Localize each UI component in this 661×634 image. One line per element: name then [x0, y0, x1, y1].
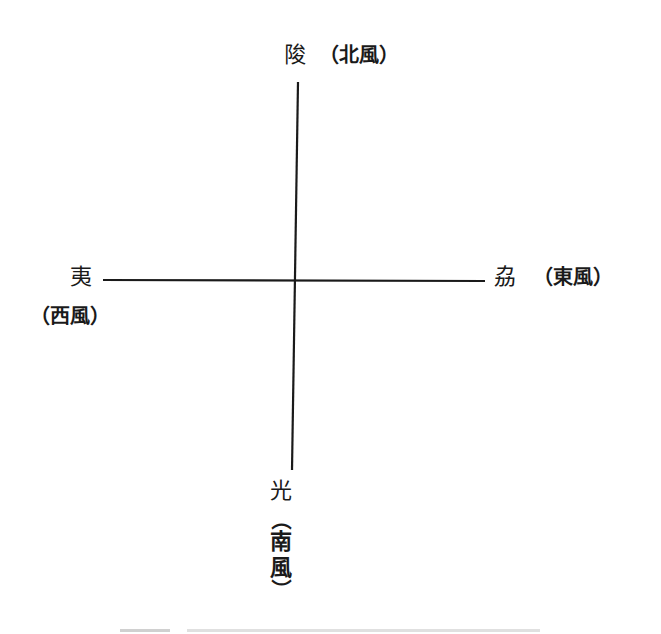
- vertical-axis: [292, 82, 298, 470]
- caption-illegible-strip: [120, 629, 540, 632]
- east-label: 劦 （東風）: [494, 266, 613, 288]
- east-gloss: （東風）: [533, 265, 613, 289]
- north-gloss: （北風）: [319, 43, 399, 67]
- south-label: 光 （ 南 風 ）: [270, 478, 292, 598]
- east-glyph: 劦: [494, 264, 516, 289]
- south-gloss-open: （: [272, 510, 290, 530]
- west-gloss: （西風）: [30, 306, 110, 326]
- north-glyph: 陖: [284, 42, 306, 67]
- south-gloss-char-2: 風: [270, 555, 292, 580]
- south-glyph: 光: [270, 478, 292, 503]
- north-label: 陖 （北風）: [284, 44, 399, 66]
- horizontal-axis: [103, 280, 485, 281]
- west-glyph: 夷: [70, 266, 92, 288]
- south-gloss-char-1: 南: [270, 529, 292, 554]
- south-gloss-close: ）: [272, 579, 290, 599]
- figure-caption-cropped: [120, 624, 540, 634]
